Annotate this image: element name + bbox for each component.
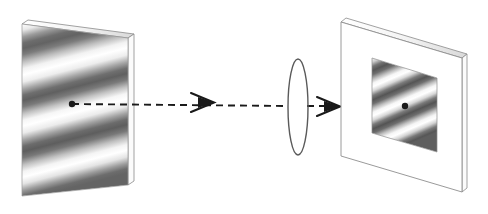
object-grating-face [22, 24, 128, 196]
diagram-canvas [0, 0, 488, 214]
thin-converging-lens [288, 59, 308, 155]
object-grating-plate [22, 20, 134, 196]
lens-ellipse [288, 59, 308, 155]
image-axis-point-overlay [402, 103, 408, 109]
image-plate-side-edge [462, 54, 467, 192]
object-plate-side-edge [128, 34, 134, 185]
optics-diagram [0, 0, 488, 214]
object-axis-point [69, 101, 75, 107]
